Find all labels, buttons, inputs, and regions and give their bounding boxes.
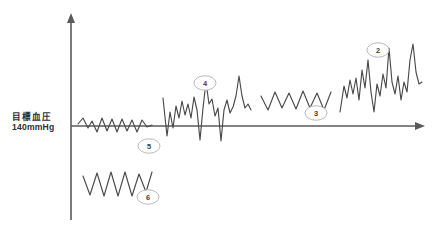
callout-3-label: 3 xyxy=(314,109,318,118)
waveform-segment-5 xyxy=(78,118,152,132)
y-axis-arrow-icon xyxy=(67,13,75,23)
callout-6-label: 6 xyxy=(146,193,150,202)
target-bp-label-line1: 目標血圧 xyxy=(12,112,70,122)
x-axis-arrow-icon xyxy=(415,122,425,130)
callouts-group: 2 3 4 5 6 xyxy=(137,43,389,204)
waveform-series-group xyxy=(78,44,422,196)
callout-3[interactable]: 3 xyxy=(305,106,327,120)
callout-4[interactable]: 4 xyxy=(194,76,216,90)
target-blood-pressure-label: 目標血圧 140mmHg xyxy=(12,112,70,132)
callout-5[interactable]: 5 xyxy=(138,139,160,153)
callout-6[interactable]: 6 xyxy=(137,190,159,204)
target-bp-label-line2: 140mmHg xyxy=(12,122,70,132)
callout-2[interactable]: 2 xyxy=(367,43,389,57)
callout-5-label: 5 xyxy=(147,142,151,151)
callout-2-label: 2 xyxy=(376,46,380,55)
blood-pressure-variability-figure: 2 3 4 5 6 目標血圧 140mmHg xyxy=(0,0,435,236)
